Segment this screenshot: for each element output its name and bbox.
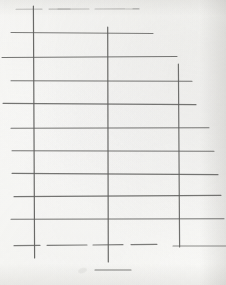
horizontal-rule-8 (12, 173, 218, 174)
horizontal-rule-5 (3, 103, 196, 104)
vertical-rule-middle (108, 27, 109, 262)
vertical-rules-group (33, 6, 179, 262)
horizontal-rule-2 (11, 33, 153, 34)
vertical-rule-left (33, 6, 34, 258)
hand-drawn-grid (0, 0, 226, 285)
horizontal-rule-11 (14, 244, 158, 245)
vertical-rule-right (178, 64, 179, 247)
extra-marks-group (58, 9, 226, 270)
horizontal-rule-9 (14, 195, 221, 196)
horizontal-rules-group (2, 9, 224, 246)
scanned-sheet (0, 0, 226, 285)
horizontal-rule-3 (2, 57, 177, 58)
